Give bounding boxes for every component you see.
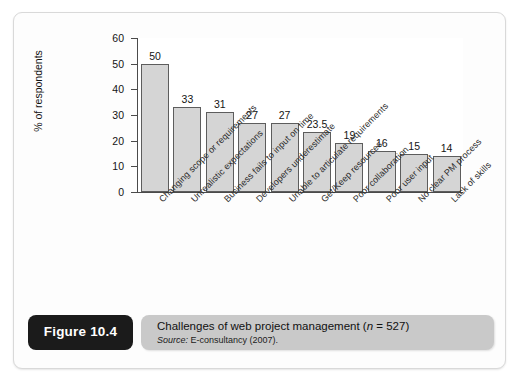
x-axis-category-labels: Changing scope or requirementsUnrealisti… (14, 193, 507, 303)
caption-source-label: Source: (157, 335, 188, 345)
y-axis-title: % of respondents (32, 31, 44, 151)
figure-panel: 0102030405060 % of respondents 503331272… (13, 12, 506, 369)
figure-number-label: Figure 10.4 (28, 324, 133, 339)
y-axis-tick-label: 30 (90, 109, 124, 121)
y-axis-tick (131, 141, 137, 142)
y-axis-tick-label: 50 (90, 58, 124, 70)
caption-source: Source: E-consultancy (2007). (157, 335, 278, 345)
caption-title-part1: Challenges of web project management ( (157, 320, 367, 332)
y-axis-tick-label: 40 (90, 83, 124, 95)
y-axis-tick-label: 60 (90, 32, 124, 44)
y-axis-tick (131, 64, 137, 65)
y-axis-tick (131, 115, 137, 116)
figure-number-tab: Figure 10.4 (28, 315, 133, 350)
y-axis-tick (131, 89, 137, 90)
caption-box: Challenges of web project management (n … (141, 315, 494, 350)
caption-title-part2: = 527) (373, 320, 409, 332)
y-axis-tick-label: 10 (90, 160, 124, 172)
y-axis-tick (131, 38, 137, 39)
y-axis-tick (131, 166, 137, 167)
caption-source-text: E-consultancy (2007). (188, 335, 278, 345)
caption-title: Challenges of web project management (n … (157, 320, 409, 332)
bar-value-label: 50 (135, 50, 175, 62)
bar (141, 64, 169, 192)
y-axis-tick-label: 20 (90, 135, 124, 147)
chart-container: 0102030405060 % of respondents 503331272… (14, 13, 507, 303)
caption-row: Figure 10.4 Challenges of web project ma… (28, 315, 494, 357)
